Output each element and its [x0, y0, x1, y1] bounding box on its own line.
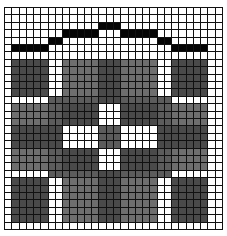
- white-cell: [129, 126, 135, 132]
- gray-cell: [150, 215, 156, 221]
- dark-gray-cell: [41, 193, 47, 199]
- white-cell: [34, 52, 40, 58]
- white-cell: [194, 171, 200, 177]
- white-cell: [34, 97, 40, 103]
- gray-cell: [179, 112, 185, 118]
- white-cell: [208, 23, 214, 29]
- gray-cell: [78, 89, 84, 95]
- white-cell: [179, 30, 185, 36]
- dark-gray-cell: [121, 149, 127, 155]
- black-cell: [107, 23, 113, 29]
- gray-cell: [172, 156, 178, 162]
- dark-gray-cell: [56, 126, 62, 132]
- black-cell: [201, 45, 207, 51]
- gray-cell: [27, 156, 33, 162]
- gray-cell: [194, 119, 200, 125]
- dark-gray-cell: [194, 60, 200, 66]
- white-cell: [143, 15, 149, 21]
- medium-gray-cell: [92, 171, 98, 177]
- gray-cell: [70, 186, 76, 192]
- white-cell: [158, 200, 164, 206]
- gray-cell: [172, 112, 178, 118]
- white-cell: [12, 223, 18, 229]
- white-cell: [114, 38, 120, 44]
- dark-gray-cell: [63, 156, 69, 162]
- white-cell: [121, 23, 127, 29]
- white-cell: [49, 89, 55, 95]
- gray-cell: [150, 208, 156, 214]
- white-cell: [129, 141, 135, 147]
- white-cell: [12, 38, 18, 44]
- white-cell: [49, 178, 55, 184]
- gray-cell: [129, 215, 135, 221]
- gray-cell: [41, 149, 47, 155]
- medium-gray-cell: [70, 97, 76, 103]
- white-cell: [56, 8, 62, 14]
- gray-cell: [63, 193, 69, 199]
- black-cell: [172, 45, 178, 51]
- dark-gray-cell: [143, 156, 149, 162]
- white-cell: [208, 193, 214, 199]
- white-cell: [107, 149, 113, 155]
- black-cell: [187, 45, 193, 51]
- white-cell: [208, 8, 214, 14]
- gray-cell: [187, 104, 193, 110]
- dark-gray-cell: [201, 67, 207, 73]
- medium-gray-cell: [107, 134, 113, 140]
- gray-cell: [129, 75, 135, 81]
- gray-cell: [41, 163, 47, 169]
- pixel-grid-chart: [4, 7, 223, 230]
- medium-gray-cell: [63, 171, 69, 177]
- gray-cell: [20, 119, 26, 125]
- white-cell: [216, 186, 222, 192]
- dark-gray-cell: [121, 112, 127, 118]
- gray-cell: [136, 75, 142, 81]
- white-cell: [20, 8, 26, 14]
- gray-cell: [150, 200, 156, 206]
- medium-gray-cell: [143, 171, 149, 177]
- gray-cell: [136, 82, 142, 88]
- dark-gray-cell: [12, 75, 18, 81]
- white-cell: [208, 67, 214, 73]
- gray-cell: [34, 119, 40, 125]
- dark-gray-cell: [150, 149, 156, 155]
- dark-gray-cell: [179, 75, 185, 81]
- white-cell: [158, 67, 164, 73]
- gray-cell: [12, 163, 18, 169]
- white-cell: [107, 223, 113, 229]
- dark-gray-cell: [136, 112, 142, 118]
- dark-gray-cell: [107, 171, 113, 177]
- white-cell: [172, 15, 178, 21]
- gray-cell: [92, 60, 98, 66]
- dark-gray-cell: [34, 193, 40, 199]
- dark-gray-cell: [158, 126, 164, 132]
- dark-gray-cell: [107, 97, 113, 103]
- dark-gray-cell: [194, 141, 200, 147]
- white-cell: [121, 126, 127, 132]
- white-cell: [216, 15, 222, 21]
- dark-gray-cell: [12, 89, 18, 95]
- white-cell: [99, 104, 105, 110]
- gray-cell: [150, 89, 156, 95]
- white-cell: [63, 45, 69, 51]
- white-cell: [5, 82, 11, 88]
- white-cell: [56, 89, 62, 95]
- white-cell: [179, 15, 185, 21]
- dark-gray-cell: [187, 141, 193, 147]
- white-cell: [179, 8, 185, 14]
- gray-cell: [121, 75, 127, 81]
- gray-cell: [143, 193, 149, 199]
- white-cell: [121, 223, 127, 229]
- white-cell: [85, 45, 91, 51]
- dark-gray-cell: [187, 126, 193, 132]
- medium-gray-cell: [165, 163, 171, 169]
- white-cell: [158, 186, 164, 192]
- white-cell: [150, 52, 156, 58]
- dark-gray-cell: [56, 141, 62, 147]
- medium-gray-cell: [158, 119, 164, 125]
- dark-gray-cell: [107, 75, 113, 81]
- white-cell: [5, 15, 11, 21]
- white-cell: [107, 156, 113, 162]
- black-cell: [136, 30, 142, 36]
- dark-gray-cell: [201, 193, 207, 199]
